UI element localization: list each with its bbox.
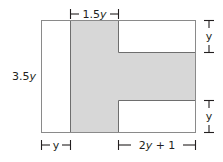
bottom-right-label-coefficient: 2 xyxy=(139,139,146,152)
right-top-dimension-label: y xyxy=(206,30,213,43)
top-dimension-label: 1.5y xyxy=(82,8,107,21)
left-dimension-label-number: 3.5 xyxy=(12,70,30,83)
bottom-right-dimension-label: 2y + 1 xyxy=(139,139,176,152)
top-dimension-label-variable: y xyxy=(99,8,107,21)
bottom-left-dimension-label: y xyxy=(53,139,60,152)
figure-canvas: 1.5y 3.5y y 2y + 1 xyxy=(0,0,223,162)
top-dimension-label-number: 1.5 xyxy=(82,8,100,21)
left-dimension-label: 3.5y xyxy=(12,70,37,83)
bottom-right-label-tail: + 1 xyxy=(152,139,175,152)
geometry-figure: 1.5y 3.5y y 2y + 1 xyxy=(0,0,223,162)
right-bottom-dimension-label: y xyxy=(206,110,213,123)
left-dimension-label-variable: y xyxy=(28,70,36,83)
